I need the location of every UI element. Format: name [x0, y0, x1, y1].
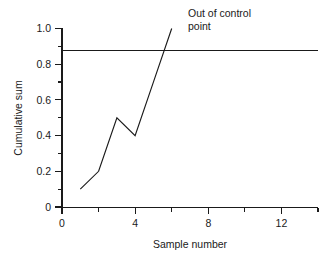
chart-canvas: 1.0 0.8 0.6 0.4 0.2 0 0 4 8 12 Cumulativ…: [0, 0, 334, 260]
x-tick-label-4: 4: [132, 217, 138, 229]
x-tick-label-0: 0: [59, 217, 65, 229]
out-of-control-annotation-line1: Out of control: [188, 7, 251, 19]
x-tick-label-8: 8: [205, 217, 211, 229]
y-tick-label-0.8: 0.8: [36, 58, 51, 70]
cusum-data-line: [80, 29, 171, 190]
y-tick-label-0: 0: [45, 201, 51, 213]
out-of-control-annotation-line2: point: [188, 20, 211, 32]
cusum-chart: 1.0 0.8 0.6 0.4 0.2 0 0 4 8 12 Cumulativ…: [0, 0, 334, 260]
y-tick-label-0.6: 0.6: [36, 94, 51, 106]
y-tick-label-0.4: 0.4: [36, 129, 51, 141]
y-tick-label-0.2: 0.2: [36, 165, 51, 177]
y-tick-label-1.0: 1.0: [36, 22, 51, 34]
y-axis-label: Cumulative sum: [12, 80, 24, 156]
x-tick-label-12: 12: [276, 217, 288, 229]
x-axis-label: Sample number: [153, 238, 228, 250]
